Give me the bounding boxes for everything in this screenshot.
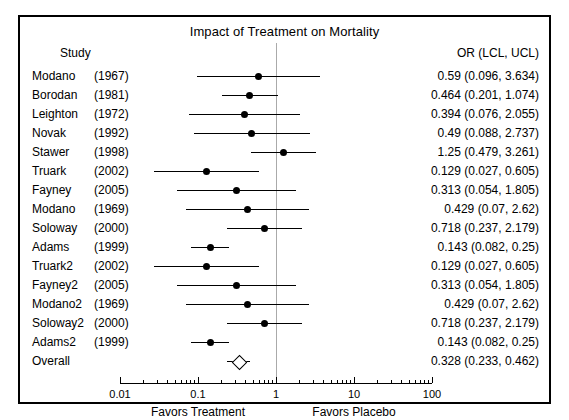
study-year: (2002) bbox=[94, 164, 129, 178]
study-name: Novak bbox=[32, 126, 94, 140]
row-study-label: Fayney(2005) bbox=[32, 183, 129, 197]
study-name: Soloway2 bbox=[32, 316, 94, 330]
row-estimate-text: 0.49 (0.088, 2.737) bbox=[438, 126, 539, 140]
row-study-label: Modano2(1969) bbox=[32, 297, 129, 311]
x-axis-major-tick bbox=[354, 377, 355, 383]
x-axis-tick-label: 0.01 bbox=[109, 388, 130, 400]
x-axis-minor-tick bbox=[346, 380, 347, 383]
study-year: (1969) bbox=[94, 297, 129, 311]
x-axis-tick-label: 0.1 bbox=[190, 388, 205, 400]
forest-row: Soloway(2000)0.718 (0.237, 2.179) bbox=[20, 219, 549, 238]
favors-placebo-caption: Favors Placebo bbox=[312, 405, 395, 419]
study-name: Truark bbox=[32, 164, 94, 178]
x-axis-minor-tick bbox=[409, 380, 410, 383]
study-year: (1999) bbox=[94, 335, 129, 349]
study-name: Modano2 bbox=[32, 297, 94, 311]
row-estimate-text: 0.394 (0.076, 2.055) bbox=[431, 107, 539, 121]
study-year: (2005) bbox=[94, 278, 129, 292]
study-name: Fayney2 bbox=[32, 278, 94, 292]
row-estimate-text: 0.464 (0.201, 1.074) bbox=[431, 88, 539, 102]
forest-row: Novak(1992)0.49 (0.088, 2.737) bbox=[20, 124, 549, 143]
row-study-label: Truark2(2002) bbox=[32, 259, 129, 273]
row-study-label: Overall bbox=[32, 354, 94, 368]
study-year: (1972) bbox=[94, 107, 129, 121]
row-study-label: Soloway(2000) bbox=[32, 221, 129, 235]
row-estimate-text: 0.718 (0.237, 2.179) bbox=[431, 221, 539, 235]
row-study-label: Adams(1999) bbox=[32, 240, 129, 254]
study-year: (1967) bbox=[94, 69, 129, 83]
page-title: Impact of Treatment on Mortality bbox=[20, 24, 549, 39]
row-estimate-text: 0.313 (0.054, 1.805) bbox=[431, 183, 539, 197]
row-estimate-text: 0.313 (0.054, 1.805) bbox=[431, 278, 539, 292]
x-axis-minor-tick bbox=[235, 380, 236, 383]
row-study-label: Modano(1967) bbox=[32, 69, 129, 83]
forest-row: Leighton(1972)0.394 (0.076, 2.055) bbox=[20, 105, 549, 124]
x-axis-minor-tick bbox=[245, 380, 246, 383]
favors-treatment-caption: Favors Treatment bbox=[151, 405, 245, 419]
forest-row: Fayney(2005)0.313 (0.054, 1.805) bbox=[20, 181, 549, 200]
x-axis-minor-tick bbox=[221, 380, 222, 383]
x-axis-minor-tick bbox=[313, 380, 314, 383]
x-axis-minor-tick bbox=[391, 380, 392, 383]
x-axis-minor-tick bbox=[424, 380, 425, 383]
x-axis-minor-tick bbox=[264, 380, 265, 383]
row-study-label: Stawer(1998) bbox=[32, 145, 129, 159]
study-year: (1969) bbox=[94, 202, 129, 216]
x-axis-minor-tick bbox=[272, 380, 273, 383]
row-estimate-text: 0.59 (0.096, 3.634) bbox=[438, 69, 539, 83]
x-axis-minor-tick bbox=[181, 380, 182, 383]
x-axis-minor-tick bbox=[415, 380, 416, 383]
x-axis-minor-tick bbox=[143, 380, 144, 383]
row-study-label: Fayney2(2005) bbox=[32, 278, 129, 292]
x-axis-minor-tick bbox=[253, 380, 254, 383]
x-axis-major-tick bbox=[198, 377, 199, 383]
study-name: Fayney bbox=[32, 183, 94, 197]
row-estimate-text: 0.129 (0.027, 0.605) bbox=[431, 259, 539, 273]
row-estimate-text: 0.129 (0.027, 0.605) bbox=[431, 164, 539, 178]
column-header-study: Study bbox=[60, 46, 91, 60]
study-name: Modano bbox=[32, 202, 94, 216]
row-estimate-text: 1.25 (0.479, 3.261) bbox=[438, 145, 539, 159]
x-axis-major-tick bbox=[276, 377, 277, 383]
study-year: (1981) bbox=[94, 88, 129, 102]
study-name: Adams bbox=[32, 240, 94, 254]
x-axis-line bbox=[120, 383, 432, 384]
x-axis-minor-tick bbox=[331, 380, 332, 383]
row-study-label: Leighton(1972) bbox=[32, 107, 129, 121]
row-estimate-text: 0.143 (0.082, 0.25) bbox=[438, 240, 539, 254]
forest-row: Adams2(1999)0.143 (0.082, 0.25) bbox=[20, 333, 549, 352]
x-axis-tick-label: 100 bbox=[423, 388, 441, 400]
row-estimate-text: 0.143 (0.082, 0.25) bbox=[438, 335, 539, 349]
forest-row: Borodan(1981)0.464 (0.201, 1.074) bbox=[20, 86, 549, 105]
x-axis-minor-tick bbox=[175, 380, 176, 383]
x-axis-tick-label: 1 bbox=[273, 388, 279, 400]
x-axis-minor-tick bbox=[350, 380, 351, 383]
study-name: Soloway bbox=[32, 221, 94, 235]
x-axis-minor-tick bbox=[186, 380, 187, 383]
x-axis-major-tick bbox=[432, 377, 433, 383]
row-study-label: Adams2(1999) bbox=[32, 335, 129, 349]
study-name: Adams2 bbox=[32, 335, 94, 349]
study-name: Borodan bbox=[32, 88, 94, 102]
forest-row: Soloway2(2000)0.718 (0.237, 2.179) bbox=[20, 314, 549, 333]
forest-row: Fayney2(2005)0.313 (0.054, 1.805) bbox=[20, 276, 549, 295]
study-year: (1998) bbox=[94, 145, 129, 159]
row-estimate-text: 0.328 (0.233, 0.462) bbox=[431, 354, 539, 368]
x-axis-tick-label: 10 bbox=[348, 388, 360, 400]
row-study-label: Truark(2002) bbox=[32, 164, 129, 178]
x-axis-minor-tick bbox=[428, 380, 429, 383]
x-axis-minor-tick bbox=[377, 380, 378, 383]
x-axis-minor-tick bbox=[401, 380, 402, 383]
forest-row: Modano(1967)0.59 (0.096, 3.634) bbox=[20, 67, 549, 86]
forest-row: Adams(1999)0.143 (0.082, 0.25) bbox=[20, 238, 549, 257]
row-estimate-text: 0.429 (0.07, 2.62) bbox=[444, 297, 539, 311]
forest-row: Stawer(1998)1.25 (0.479, 3.261) bbox=[20, 143, 549, 162]
x-axis-major-tick bbox=[120, 377, 121, 383]
x-axis-minor-tick bbox=[323, 380, 324, 383]
x-axis-minor-tick bbox=[190, 380, 191, 383]
study-name: Stawer bbox=[32, 145, 94, 159]
x-axis-minor-tick bbox=[157, 380, 158, 383]
study-year: (2000) bbox=[94, 221, 129, 235]
forest-row: Overall0.328 (0.233, 0.462) bbox=[20, 352, 549, 371]
row-study-label: Soloway2(2000) bbox=[32, 316, 129, 330]
